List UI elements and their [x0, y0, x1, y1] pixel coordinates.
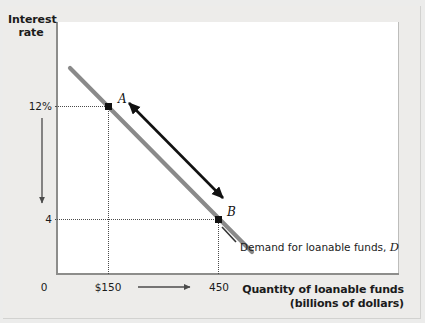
y-axis-title-line1: Interest	[8, 13, 57, 26]
point-a-label: A	[118, 92, 127, 106]
y-axis-line	[56, 22, 58, 274]
origin-tick-label: 0	[33, 281, 55, 293]
demand-curve-label: Demand for loanable funds, D	[240, 240, 399, 254]
x-tick-label-450: 450	[196, 281, 242, 293]
x-axis-title-line1: Quantity of loanable funds	[242, 283, 404, 296]
gridline-interest-12	[55, 106, 111, 107]
x-tick-label-150: $150	[82, 281, 134, 293]
figure-container: Interest rate Quantity of loanable funds…	[0, 0, 425, 323]
gridline-interest-4	[55, 219, 220, 220]
gridline-quantity-450	[218, 219, 219, 274]
point-b-label: B	[227, 205, 236, 219]
y-axis-title: Interest rate	[8, 13, 54, 39]
gridline-quantity-150	[108, 106, 109, 274]
x-axis-title-line2: (billions of dollars)	[290, 297, 404, 310]
demand-curve-label-text: Demand for loanable funds,	[240, 241, 390, 253]
y-tick-label-12: 12%	[22, 100, 52, 112]
y-tick-label-4: 4	[22, 213, 52, 225]
y-axis-title-line2: rate	[18, 26, 43, 39]
demand-curve-symbol: D	[390, 240, 399, 254]
